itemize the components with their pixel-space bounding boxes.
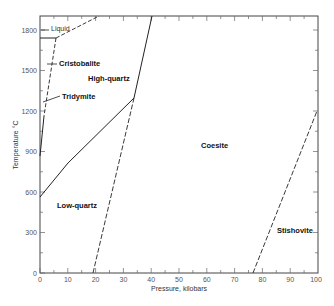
y-tick-1800: 1800 bbox=[21, 27, 37, 34]
y-tick-labels: 0 300 600 900 1200 1500 1800 bbox=[21, 27, 37, 277]
y-tick-900: 900 bbox=[25, 148, 37, 155]
label-high-quartz: High-quartz bbox=[88, 74, 130, 83]
x-tick-0: 0 bbox=[38, 276, 42, 283]
label-stishovite: Stishovite bbox=[277, 226, 313, 235]
x-tick-100: 100 bbox=[310, 276, 322, 283]
x-tick-90: 90 bbox=[286, 276, 294, 283]
coesite-stishovite-boundary bbox=[253, 111, 317, 273]
tridymite-boundary bbox=[40, 116, 44, 156]
label-pointers bbox=[41, 30, 60, 102]
x-tick-20: 20 bbox=[92, 276, 100, 283]
y-tick-1500: 1500 bbox=[21, 67, 37, 74]
label-low-quartz: Low-quartz bbox=[57, 201, 97, 210]
label-coesite: Coesite bbox=[201, 141, 228, 150]
y-tick-0: 0 bbox=[33, 270, 37, 277]
x-tick-70: 70 bbox=[231, 276, 239, 283]
x-tick-80: 80 bbox=[259, 276, 267, 283]
phase-boundaries bbox=[40, 16, 317, 273]
quartz-coesite-boundary bbox=[134, 16, 152, 98]
x-axis-ticks bbox=[40, 16, 304, 273]
x-tick-10: 10 bbox=[64, 276, 72, 283]
y-tick-1200: 1200 bbox=[21, 108, 37, 115]
y-tick-600: 600 bbox=[25, 189, 37, 196]
label-liquid: Liquid bbox=[51, 25, 70, 33]
y-axis-title: Temperature °C bbox=[12, 120, 20, 169]
low-quartz-coesite-boundary bbox=[93, 98, 134, 273]
y-tick-300: 300 bbox=[25, 229, 37, 236]
x-tick-labels: 0 10 20 30 40 50 60 70 80 90 100 bbox=[38, 276, 322, 283]
cristobalite-boundary bbox=[44, 38, 56, 116]
x-tick-40: 40 bbox=[147, 276, 155, 283]
tridymite-pointer bbox=[43, 96, 60, 102]
x-tick-50: 50 bbox=[175, 276, 183, 283]
x-tick-30: 30 bbox=[120, 276, 128, 283]
label-cristobalite: Cristobalite bbox=[59, 59, 100, 68]
x-axis-title: Pressure, kilobars bbox=[151, 285, 208, 292]
label-tridymite: Tridymite bbox=[62, 92, 95, 101]
x-tick-60: 60 bbox=[203, 276, 211, 283]
low-high-quartz-boundary bbox=[40, 98, 134, 197]
phase-diagram: 0 10 20 30 40 50 60 70 80 90 100 0 300 6… bbox=[0, 0, 334, 306]
